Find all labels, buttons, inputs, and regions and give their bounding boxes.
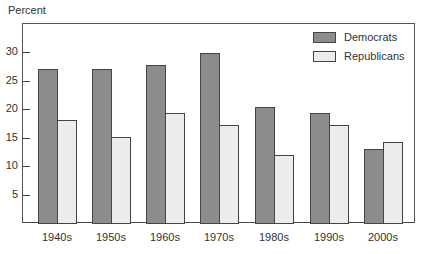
bar-republicans-1960s <box>165 113 185 224</box>
x-tick-label: 1970s <box>199 231 239 243</box>
y-tick-label: 30 <box>0 45 18 57</box>
y-axis-title: Percent <box>8 4 46 16</box>
x-tick-label: 1960s <box>145 231 185 243</box>
bar-democrats-1970s <box>200 53 220 224</box>
y-tick <box>22 166 30 167</box>
bar-republicans-1970s <box>219 125 239 224</box>
y-tick <box>22 195 30 196</box>
bar-republicans-1950s <box>111 137 131 224</box>
bar-republicans-1980s <box>274 155 294 224</box>
y-tick-label: 20 <box>0 102 18 114</box>
y-tick-label: 25 <box>0 74 18 86</box>
bar-democrats-1990s <box>310 113 330 224</box>
y-tick <box>22 109 30 110</box>
bar-democrats-1980s <box>255 107 275 224</box>
legend-swatch-republicans <box>313 51 336 62</box>
bar-republicans-2000s <box>383 142 403 224</box>
x-tick-label: 1950s <box>91 231 131 243</box>
bar-democrats-2000s <box>364 149 384 224</box>
bar-republicans-1940s <box>57 120 77 224</box>
bar-democrats-1960s <box>146 65 166 224</box>
bar-democrats-1950s <box>92 69 112 224</box>
y-tick-label: 5 <box>0 188 18 200</box>
y-tick-label: 10 <box>0 159 18 171</box>
legend-swatch-democrats <box>313 32 336 43</box>
x-tick-label: 1990s <box>309 231 349 243</box>
x-tick-label: 1980s <box>254 231 294 243</box>
bar-republicans-1990s <box>329 125 349 224</box>
x-tick-label: 2000s <box>363 231 403 243</box>
legend-label-democrats: Democrats <box>344 31 397 43</box>
y-tick <box>22 138 30 139</box>
bar-democrats-1940s <box>38 69 58 224</box>
y-tick <box>22 81 30 82</box>
y-tick-label: 15 <box>0 131 18 143</box>
x-tick-label: 1940s <box>37 231 77 243</box>
y-tick <box>22 52 30 53</box>
legend-label-republicans: Republicans <box>344 50 405 62</box>
